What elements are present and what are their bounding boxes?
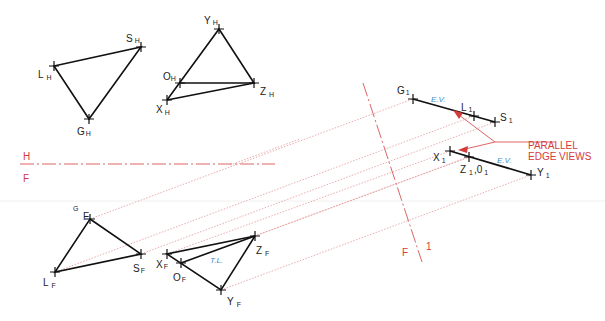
label-z-f: ZF — [256, 245, 269, 257]
label-o-f: OF — [173, 272, 186, 283]
f-view-triangle-lsg — [55, 219, 141, 272]
label-y-h: YH — [204, 15, 218, 26]
label-y-1: Y1 — [537, 167, 550, 179]
label-x-h: XH — [156, 104, 170, 116]
projection-line-s — [141, 122, 495, 254]
annotation-parallel: PARALLEL — [528, 140, 578, 151]
projection-line-z — [255, 157, 469, 236]
fold-label-f: F — [23, 173, 29, 184]
label-z-1: Z1 — [460, 164, 473, 176]
label-o-h: OH — [163, 71, 176, 82]
label-s-h: SH — [126, 33, 140, 44]
label-l-h: LH — [38, 69, 52, 81]
label-g-f: F — [83, 211, 89, 222]
label-o-1: ,01 — [474, 164, 488, 176]
projection-lines — [55, 99, 531, 290]
label-l-1: L1 — [461, 102, 473, 113]
projection-line-l — [55, 116, 474, 272]
h-view-triangle-lsg — [54, 47, 141, 119]
label-g-f-sup: G — [73, 205, 78, 212]
ev-label-lsg: E.V. — [431, 95, 446, 104]
fold-label-f-aux: F — [402, 247, 408, 258]
projection-line-extension — [230, 139, 300, 165]
label-s-1: S1 — [500, 112, 513, 124]
annotation-arrowheads — [453, 110, 468, 153]
label-s-f: SF — [133, 263, 145, 274]
true-length-label: T.L. — [210, 256, 223, 265]
label-l-f: LF — [43, 277, 56, 289]
label-g-h: GH — [77, 126, 91, 137]
descriptive-geometry-diagram: H F F 1 LH SH GH YH OH ZH XH G F SF LF X… — [0, 0, 605, 321]
projection-line-y — [221, 175, 531, 290]
label-x-1: X1 — [433, 152, 446, 164]
annotation-edge-views: EDGE VIEWS — [528, 151, 592, 162]
projection-line-x — [167, 151, 450, 254]
fold-line-f1 — [363, 83, 422, 262]
label-y-f: YF — [227, 296, 241, 308]
ev-label-xyzo: E.V. — [497, 156, 512, 165]
label-x-f: XF — [156, 259, 168, 270]
label-g-1: G1 — [397, 85, 410, 96]
label-z-h: ZH — [260, 86, 274, 98]
fold-label-1: 1 — [426, 241, 432, 252]
fold-label-h: H — [23, 151, 30, 162]
h-view-plane-xyzo — [167, 29, 254, 100]
